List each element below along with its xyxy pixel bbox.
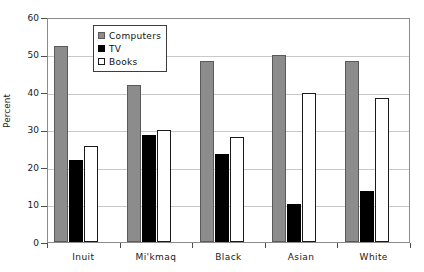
bar-chart: 0102030405060 Percent InuitMi'kmaqBlackA…: [0, 0, 424, 272]
legend-swatch-books-icon: [98, 58, 105, 65]
bar-mikmaq-books: [157, 130, 171, 242]
bar-black-tv: [215, 154, 229, 242]
y-tick-label: 0: [17, 239, 39, 248]
x-category-label: Mi'kmaq: [120, 252, 193, 262]
x-tick-mark: [47, 243, 48, 248]
y-tick-mark: [41, 131, 47, 132]
legend-label-tv: TV: [109, 44, 121, 54]
chart-title-cropped: [120, 0, 410, 5]
y-axis-title: Percent: [2, 76, 12, 146]
legend-swatch-computers-icon: [98, 32, 105, 39]
legend-item-tv: TV: [98, 42, 162, 55]
y-tick-label: 20: [17, 164, 39, 173]
bar-white-tv: [360, 191, 374, 242]
bar-black-computers: [200, 61, 214, 242]
bar-inuit-computers: [54, 46, 68, 242]
x-category-label: Asian: [265, 252, 338, 262]
x-category-label: Black: [192, 252, 265, 262]
chart-legend: Computers TV Books: [93, 25, 167, 72]
legend-label-books: Books: [109, 57, 138, 67]
y-tick-mark: [41, 56, 47, 57]
bar-white-computers: [345, 61, 359, 243]
bar-asian-computers: [272, 55, 286, 243]
y-tick-label: 40: [17, 89, 39, 98]
bar-mikmaq-tv: [142, 135, 156, 242]
x-tick-mark: [265, 243, 266, 248]
legend-swatch-tv-icon: [98, 45, 105, 52]
legend-item-books: Books: [98, 55, 162, 68]
y-tick-mark: [41, 93, 47, 94]
x-tick-mark: [120, 243, 121, 248]
bar-inuit-tv: [69, 160, 83, 243]
y-tick-label: 60: [17, 14, 39, 23]
x-tick-mark: [192, 243, 193, 248]
bar-asian-books: [302, 93, 316, 242]
y-tick-label: 10: [17, 201, 39, 210]
y-tick-mark: [41, 18, 47, 19]
y-tick-mark: [41, 168, 47, 169]
bar-inuit-books: [84, 146, 98, 242]
y-tick-label: 30: [17, 126, 39, 135]
x-category-label: White: [337, 252, 410, 262]
legend-label-computers: Computers: [109, 31, 161, 41]
legend-item-computers: Computers: [98, 29, 162, 42]
bar-asian-tv: [287, 204, 301, 242]
bar-black-books: [230, 137, 244, 242]
x-tick-mark: [337, 243, 338, 248]
bar-mikmaq-computers: [127, 85, 141, 242]
y-tick-mark: [41, 206, 47, 207]
bar-white-books: [375, 98, 389, 242]
x-category-label: Inuit: [47, 252, 120, 262]
x-tick-mark: [410, 243, 411, 248]
y-tick-label: 50: [17, 51, 39, 60]
